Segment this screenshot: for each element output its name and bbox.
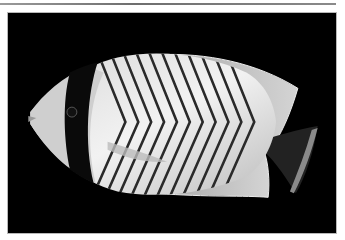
fish-illustration [8,13,336,233]
fish-photo: Chevron butterflyfish photographed again… [7,12,337,234]
fish-eye [67,107,77,117]
top-divider-rule [0,3,336,5]
